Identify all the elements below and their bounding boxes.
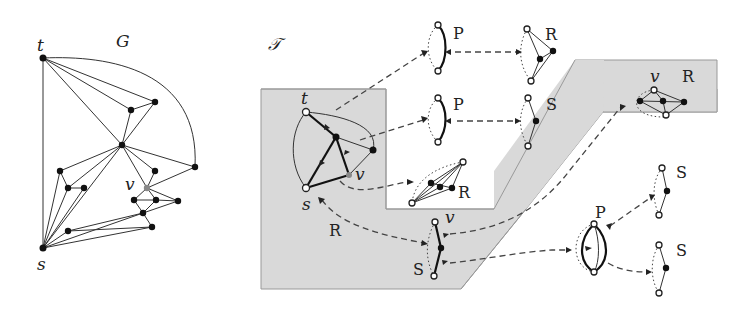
label-v: v [125,174,135,194]
root-r-label: R [329,221,342,240]
tree-node-r3: R [409,159,471,206]
svg-text:S: S [413,260,424,279]
graph-g: t s v G [37,31,198,274]
svg-text:t: t [301,88,308,108]
spqr-figure: t s v G 𝒯 [0,0,740,311]
svg-text:v: v [445,207,455,227]
svg-text:P: P [453,95,464,114]
svg-text:S: S [546,95,557,114]
svg-text:R: R [458,183,471,202]
tree-node-p2: P [428,95,464,145]
tree-node-s3: S [654,163,687,218]
vertex-s [40,245,47,252]
svg-text:s: s [302,194,311,214]
svg-text:P: P [595,203,606,222]
tree-node-p3: P [576,203,606,275]
svg-text:R: R [682,67,695,86]
vertex-v [144,185,150,191]
tree-title: 𝒯 [268,34,286,54]
svg-text:P: P [453,24,464,43]
svg-text:v: v [650,66,660,86]
svg-text:S: S [676,241,687,260]
label-s: s [37,254,46,274]
label-t: t [37,35,44,55]
vertex-t [40,55,47,62]
svg-text:R: R [545,25,558,44]
svg-text:v: v [355,164,365,184]
spqr-tree: 𝒯 t s v R [261,0,740,296]
svg-text:S: S [676,163,687,182]
graph-title: G [116,31,130,51]
tree-node-s4: S [652,241,687,296]
